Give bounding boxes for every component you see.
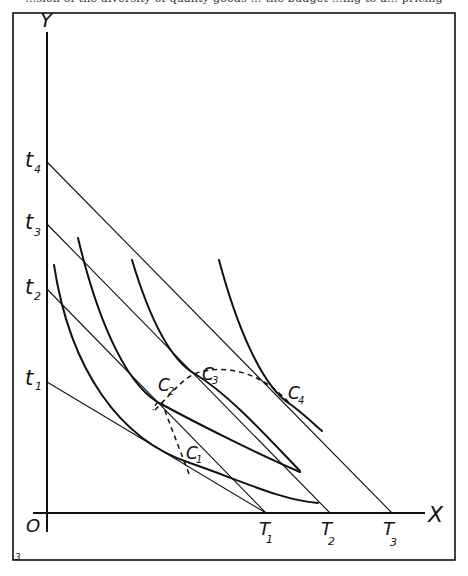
indifference-curve-3	[132, 260, 300, 471]
label-t4: t	[25, 148, 34, 172]
y-axis-label: Y	[40, 8, 54, 32]
figure-frame	[13, 13, 455, 560]
figure-number: 3	[15, 552, 21, 562]
label-t1-sub: 1	[35, 380, 42, 393]
budget-line-t4-T3	[47, 162, 392, 513]
label-t2-sub: 2	[34, 290, 41, 303]
label-C1-sub: 1	[196, 454, 202, 465]
label-C3-sub: 3	[212, 375, 218, 386]
label-C2-sub: 2	[168, 386, 174, 397]
label-t3: t	[25, 210, 34, 234]
label-T1-sub: 1	[266, 533, 273, 546]
label-t2: t	[25, 275, 34, 299]
x-axis-label: X	[427, 502, 444, 527]
label-t4-sub: 4	[34, 163, 41, 176]
x-intercept-labels: T 1 T 2 T 3	[259, 518, 397, 549]
origin-label: O	[26, 515, 40, 536]
label-t1: t	[25, 366, 34, 390]
budget-lines	[47, 162, 392, 513]
label-C4-sub: 4	[298, 395, 304, 406]
label-T3-sub: 3	[390, 536, 397, 549]
label-t3-sub: 3	[34, 226, 41, 239]
indifference-curve-diagram: Y X O 3 t 4 t 3 t 2 t 1 T 1 T 2 T 3 C 1 …	[0, 0, 468, 576]
expansion-path-c1-c2	[153, 401, 189, 474]
indifference-curves	[54, 238, 322, 503]
label-T2-sub: 2	[328, 535, 335, 548]
indifference-curve-1	[54, 265, 318, 503]
y-intercept-labels: t 4 t 3 t 2 t 1	[25, 148, 42, 393]
